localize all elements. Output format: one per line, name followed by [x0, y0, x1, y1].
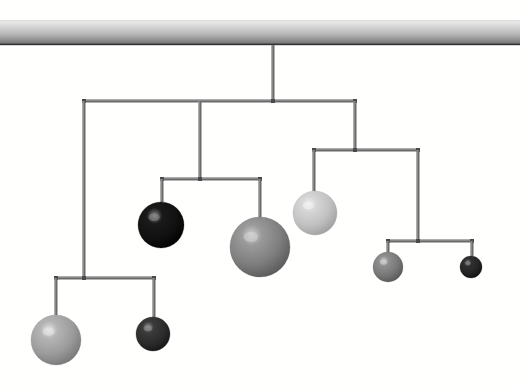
drop-to-ball-pale-large-highlight	[313, 150, 314, 191]
drop-to-ball-gray-largest	[259, 179, 262, 217]
left-crossbar-highlight	[56, 277, 154, 278]
ball-dark-small-bottom-middle	[136, 317, 170, 351]
right-crossbar	[314, 149, 418, 152]
drop-to-ball-pale-bottom-left	[55, 278, 58, 315]
ball-pale-medium	[293, 191, 337, 235]
ball-gray-small-right-specular-highlight	[380, 259, 387, 264]
ball-gray-large	[230, 217, 290, 277]
drop-to-ball-dark-bottom-middle-highlight	[153, 278, 154, 317]
main-suspension-stem-highlight	[272, 45, 273, 101]
mobile-illustration	[0, 0, 520, 388]
drop-to-right-branch-highlight	[354, 101, 355, 150]
lower-right-crossbar	[388, 240, 472, 243]
left-crossbar	[56, 277, 154, 280]
middle-crossbar-highlight	[162, 178, 260, 179]
drop-to-ball-gray-small-highlight	[387, 241, 388, 252]
mobile-scene	[0, 0, 520, 388]
top-crossbar-pivot-joint	[271, 99, 275, 103]
right-crossbar-highlight	[314, 149, 418, 150]
lower-right-crossbar-pivot-joint	[416, 239, 420, 243]
ceiling-beam-body	[0, 20, 520, 45]
drop-to-lower-right-branch	[417, 150, 420, 241]
drop-to-middle-branch	[199, 101, 202, 179]
ball-pale-large-bottom-left-specular-highlight	[43, 327, 55, 336]
drop-to-ball-dark-bottom-middle	[153, 278, 156, 317]
top-crossbar-highlight	[84, 100, 355, 101]
drop-to-left-branch	[83, 101, 86, 278]
drop-to-ball-pale-large	[313, 150, 316, 191]
ball-dark-smallest-far-right-specular-highlight	[465, 261, 470, 265]
ceiling-beam-edge	[0, 44, 520, 46]
middle-crossbar-pivot-joint	[198, 177, 202, 181]
ball-pale-medium-specular-highlight	[303, 202, 314, 209]
ball-pale-large-bottom-left	[31, 315, 81, 365]
ball-black-medium-specular-highlight	[149, 213, 160, 221]
right-crossbar-pivot-joint	[353, 148, 357, 152]
drop-to-ball-pale-bottom-left-highlight	[55, 278, 56, 315]
lower-right-crossbar-highlight	[388, 240, 472, 241]
drop-to-left-branch-highlight	[83, 101, 84, 278]
left-crossbar-pivot-joint	[82, 276, 86, 280]
drop-to-ball-dark-smallest	[471, 241, 474, 256]
drop-to-ball-dark-smallest-highlight	[471, 241, 472, 256]
top-crossbar	[84, 100, 355, 103]
main-suspension-stem	[272, 45, 275, 101]
drop-to-lower-right-branch-highlight	[417, 150, 418, 241]
drop-to-ball-gray-small	[387, 241, 390, 252]
ceiling-beam	[0, 20, 520, 45]
drop-to-ball-black	[161, 179, 164, 202]
drop-to-right-branch	[354, 101, 357, 150]
ball-dark-smallest-far-right	[460, 256, 482, 278]
ball-dark-small-bottom-middle-specular-highlight	[144, 325, 152, 331]
ball-black-medium	[138, 202, 184, 248]
drop-to-ball-gray-largest-highlight	[259, 179, 260, 217]
drop-to-ball-black-highlight	[161, 179, 162, 202]
drop-to-middle-branch-highlight	[199, 101, 200, 179]
ceiling-beam-top-highlight	[0, 20, 520, 21]
middle-crossbar	[162, 178, 260, 181]
ball-gray-small-right	[373, 252, 403, 282]
ball-gray-large-specular-highlight	[244, 232, 258, 242]
